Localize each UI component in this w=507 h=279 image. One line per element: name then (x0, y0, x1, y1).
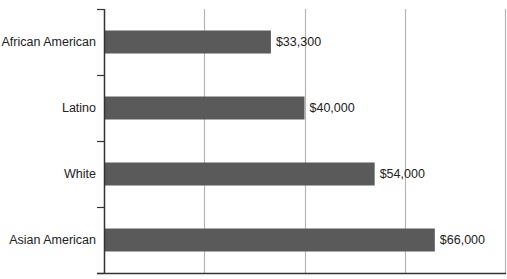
bar-asian-american (104, 229, 435, 252)
value-label: $33,300 (276, 35, 321, 49)
category-label: African American (2, 35, 96, 49)
value-label: $54,000 (380, 167, 425, 181)
bar-latino (104, 97, 305, 120)
value-label: $66,000 (440, 233, 485, 247)
category-label: White (64, 167, 96, 181)
bar-african-american (104, 31, 271, 54)
category-label: Asian American (9, 233, 96, 247)
bar-white (104, 163, 375, 186)
value-label: $40,000 (310, 101, 355, 115)
category-label: Latino (62, 101, 96, 115)
bar-chart: African American$33,300Latino$40,000Whit… (0, 0, 507, 279)
